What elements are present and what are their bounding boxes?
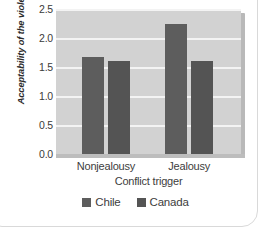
x-axis-title: Conflict trigger [56,175,241,187]
legend-label: Chile [95,196,120,208]
bar-chart: Acceptability of the violence 2.5 2.0 1.… [0,0,271,236]
legend-entry-chile: Chile [82,196,120,208]
y-tick-label: 1.0 [39,90,53,102]
y-tick-label: 1.5 [39,61,53,73]
gridline [56,38,241,40]
axis-baseline [56,154,245,158]
legend-swatch-icon [82,198,91,207]
y-tick-label: 2.5 [39,3,53,15]
plot-area [56,9,241,154]
y-axis-tick-labels: 2.5 2.0 1.5 1.0 0.5 0.0 [26,9,53,153]
x-tick-label-jealousy: Jealousy [139,160,239,172]
legend-entry-canada: Canada [137,196,189,208]
legend-swatch-icon [137,198,146,207]
chart-legend: Chile Canada [0,196,271,208]
bar-nonjealousy-chile [82,57,104,154]
gridline [56,9,241,11]
y-tick-label: 0.0 [39,148,53,160]
y-tick-label: 0.5 [39,119,53,131]
bar-jealousy-canada [191,61,213,154]
y-axis-title: Acceptability of the violence [16,0,26,108]
bar-nonjealousy-canada [108,61,130,154]
figure-page: Acceptability of the violence 2.5 2.0 1.… [0,0,271,236]
bar-jealousy-chile [165,24,187,155]
legend-label: Canada [150,196,189,208]
y-tick-label: 2.0 [39,32,53,44]
